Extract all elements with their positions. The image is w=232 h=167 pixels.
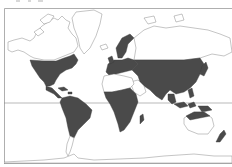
new-zealand-shaded	[216, 130, 226, 142]
southeast-asia-shaded	[168, 94, 176, 104]
world-map-canvas	[4, 8, 232, 164]
arctic-russia	[134, 26, 232, 60]
arctic-russia-islands	[144, 16, 156, 24]
sub-saharan-africa-shaded	[104, 88, 138, 132]
cropped-caption-marks	[8, 0, 68, 4]
patagonia	[66, 136, 74, 156]
philippines-shaded	[188, 88, 194, 98]
arctic-russia-islands-2	[174, 14, 184, 22]
caribbean-islands-2	[68, 92, 72, 94]
iceland	[100, 44, 108, 50]
madagascar-shaded	[140, 114, 144, 124]
world-map	[4, 8, 232, 164]
new-guinea-shaded	[198, 106, 212, 112]
scandinavia-shaded	[116, 34, 134, 58]
antarctica	[4, 154, 232, 163]
caribbean-islands	[58, 87, 68, 91]
south-america-shaded	[60, 96, 92, 138]
